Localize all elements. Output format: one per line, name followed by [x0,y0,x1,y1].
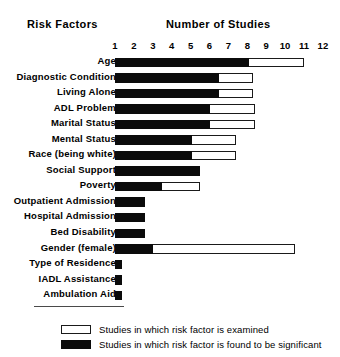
x-axis-tick-1: 1 [108,40,122,51]
number-of-studies-heading: Number of Studies [166,18,271,30]
bar-segment-significant [115,291,122,301]
bar-segment-significant [115,73,219,83]
bar-row: Age [0,56,340,72]
bar-row-label: Poverty [80,179,116,190]
chart-container: Risk Factors Number of Studies 123456789… [0,0,340,357]
bar-row: Marital Status [0,118,340,134]
bar-segment-significant [115,151,192,161]
bar-row-label: Social Support [46,164,116,175]
bar-row-label: Ambulation Aid [43,288,116,299]
bar-row-label: ADL Problem [54,102,116,113]
bar-segment-significant [115,104,210,114]
bar-segment-significant [115,135,192,145]
bar-segment-significant [115,58,249,68]
x-axis-tick-7: 7 [221,40,235,51]
x-axis-tick-3: 3 [146,40,160,51]
bar-row: Bed Disability [0,227,340,243]
legend-swatch-open-icon [61,325,91,334]
legend-swatch-solid-icon [61,340,91,349]
bar-row-label: Hospital Admission [24,210,116,221]
bar-row: Living Alone [0,87,340,103]
bar-row-label: IADL Assistance [39,273,116,284]
bar-row: Social Support [0,165,340,181]
bar-row: IADL Assistance [0,274,340,290]
bar-row: Type of Residence [0,258,340,274]
bar-row: Diagnostic Condition [0,72,340,88]
x-axis-tick-6: 6 [203,40,217,51]
bar-segment-significant [115,182,162,192]
x-axis-tick-11: 11 [297,40,311,51]
bar-segment-significant [115,166,200,176]
bar-segment-significant [115,229,145,239]
bar-row: Ambulation Aid [0,289,340,305]
bar-row-label: Type of Residence [29,257,116,268]
x-axis-tick-2: 2 [127,40,141,51]
legend-label-significant: Studies in which risk factor is found to… [99,339,322,350]
bar-row-label: Outpatient Admission [14,195,116,206]
bar-row-label: Marital Status [51,117,116,128]
x-axis-tick-8: 8 [240,40,254,51]
bar-segment-significant [115,260,122,270]
bar-segment-significant [115,213,145,223]
bar-segment-significant [115,197,145,207]
bar-row-label: Mental Status [52,133,116,144]
bar-row-label: Living Alone [57,86,116,97]
bar-segment-significant [115,275,122,285]
legend-divider [34,306,124,307]
legend-label-examined: Studies in which risk factor is examined [99,324,269,335]
bar-segment-significant [115,244,153,254]
bar-row: Race (being white) [0,149,340,165]
bar-segment-significant [115,89,219,99]
bar-row: Hospital Admission [0,211,340,227]
x-axis-tick-5: 5 [184,40,198,51]
bar-row-label: Age [97,55,116,66]
bar-segment-significant [115,120,210,130]
x-axis-tick-4: 4 [165,40,179,51]
bar-row-label: Gender (female) [41,242,116,253]
bar-row: ADL Problem [0,103,340,119]
x-axis-tick-12: 12 [316,40,330,51]
bar-rows: AgeDiagnostic ConditionLiving AloneADL P… [0,56,340,305]
bar-row: Mental Status [0,134,340,150]
bar-row-label: Diagnostic Condition [16,71,116,82]
bar-row: Gender (female) [0,243,340,259]
risk-factors-heading: Risk Factors [27,18,98,30]
bar-row-label: Bed Disability [50,226,116,237]
bar-row: Poverty [0,180,340,196]
x-axis-tick-labels: 123456789101112 [0,40,340,53]
x-axis-tick-9: 9 [259,40,273,51]
x-axis-tick-10: 10 [278,40,292,51]
bar-row-label: Race (being white) [28,148,116,159]
bar-row: Outpatient Admission [0,196,340,212]
